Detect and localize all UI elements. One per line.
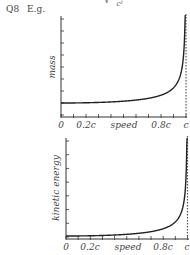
x-tick-label-0: 0 (63, 242, 69, 252)
x-tick-label-c: c (184, 242, 189, 252)
mass-vs-speed-chart: mass 0 0.2c speed 0.8c c (47, 14, 189, 130)
charts-canvas: mass 0 0.2c speed 0.8c c kinetic energy … (0, 0, 190, 255)
x-tick-label-0: 0 (58, 120, 64, 130)
x-tick-label-c: c (183, 120, 188, 130)
x-tick-label-0.2c: 0.2c (80, 242, 99, 252)
x-axis-label: speed (111, 120, 138, 130)
y-axis-label: kinetic energy (51, 154, 61, 220)
x-tick-label-0.8c: 0.8c (153, 242, 172, 252)
x-tick-label-0.8c: 0.8c (151, 120, 170, 130)
y-axis-label: mass (47, 55, 57, 79)
kinetic-energy-curve (66, 138, 187, 236)
x-tick-label-0.2c: 0.2c (76, 120, 95, 130)
mass-curve (61, 15, 185, 103)
x-axis-label: speed (115, 242, 142, 252)
kinetic-energy-vs-speed-chart: kinetic energy 0 0.2c speed 0.8c c (51, 136, 190, 252)
